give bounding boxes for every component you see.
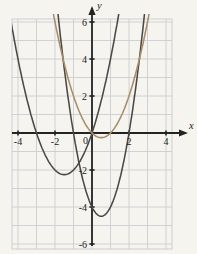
- axes: [12, 6, 188, 246]
- parabola-curves: [10, 0, 154, 216]
- y-tick-label: -2: [79, 165, 87, 176]
- x-tick-label: 4: [164, 136, 169, 147]
- y-tick-label: -4: [79, 202, 87, 213]
- y-axis-arrowhead: [88, 6, 95, 15]
- y-tick-label: 6: [82, 17, 87, 28]
- textbook-graph-figure: -4-224642-2-4-60 x y: [0, 0, 197, 254]
- y-tick-label: 2: [82, 91, 87, 102]
- parabola-curve-2: [56, 0, 148, 216]
- origin-label: 0: [83, 135, 88, 146]
- y-axis-label: y: [96, 0, 102, 11]
- x-tick-label: -4: [14, 136, 22, 147]
- x-axis-arrowhead: [179, 129, 188, 136]
- y-tick-label: 4: [82, 54, 87, 65]
- x-tick-label: -2: [51, 136, 59, 147]
- coordinate-plane: -4-224642-2-4-60 x y: [0, 0, 197, 254]
- x-tick-label: 2: [127, 136, 132, 147]
- x-axis-label: x: [188, 120, 194, 131]
- y-tick-label: -6: [79, 239, 87, 250]
